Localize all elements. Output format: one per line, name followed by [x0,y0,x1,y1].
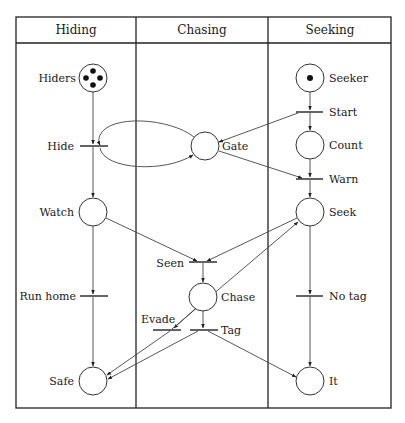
label-start: Start [329,106,358,119]
place-gate [191,132,219,160]
label-count: Count [329,139,363,152]
place-hiders [79,64,107,92]
column-header-hiding: Hiding [55,23,97,37]
label-warn: Warn [329,173,358,186]
label-tag: Tag [221,324,241,337]
place-watch [79,198,107,226]
label-watch: Watch [39,206,74,219]
label-seeker: Seeker [329,72,369,85]
label-hiders: Hiders [38,72,76,85]
label-chase: Chase [221,291,255,304]
petri-net-diagram: Hiding Chasing Seeking [0,0,405,423]
label-it: It [329,375,338,388]
place-safe [79,367,107,395]
place-it [296,367,324,395]
label-run-home: Run home [19,290,76,303]
column-header-chasing: Chasing [177,23,227,37]
place-seeker [296,64,324,92]
label-no-tag: No tag [329,290,367,303]
place-count [296,131,324,159]
place-seek [296,198,324,226]
label-seen: Seen [156,257,184,270]
column-header-seeking: Seeking [306,23,355,37]
label-gate: Gate [222,140,248,153]
label-hide: Hide [47,140,74,153]
label-evade: Evade [141,313,175,326]
place-chase [189,283,217,311]
label-safe: Safe [49,375,74,388]
label-seek: Seek [329,206,357,219]
